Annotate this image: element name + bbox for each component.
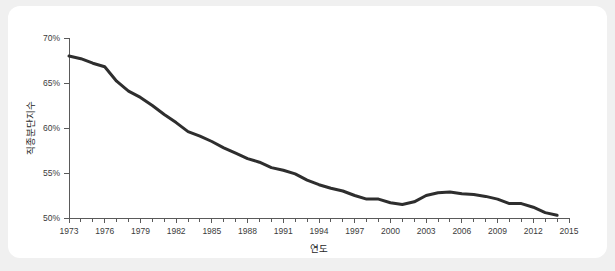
y-tick-label: 60% [43, 123, 60, 133]
y-tick-label: 65% [43, 78, 60, 88]
y-axis-title: 직종분단지수 [25, 101, 36, 155]
x-tick-label: 2009 [488, 226, 507, 236]
x-tick-label: 1982 [167, 226, 186, 236]
x-tick-label: 1976 [95, 226, 114, 236]
y-axis-tick-labels: 70%65%60%55%50% [43, 33, 60, 223]
chart-card: 70%65%60%55%50% 197319761979198219851988… [8, 6, 607, 258]
x-tick-label: 1979 [131, 226, 150, 236]
y-tick-label: 70% [43, 33, 60, 43]
series-line-occupational-segregation [69, 56, 557, 215]
x-tick-label: 1997 [345, 226, 364, 236]
x-tick-label: 1973 [60, 226, 79, 236]
x-tick-label: 1988 [238, 226, 257, 236]
y-tick-label: 50% [43, 213, 60, 223]
x-axis-title: 연도 [310, 243, 328, 254]
line-chart: 70%65%60%55%50% 197319761979198219851988… [8, 6, 607, 258]
x-tick-label: 2012 [524, 226, 543, 236]
y-tick-label: 55% [43, 168, 60, 178]
x-tick-label: 1994 [310, 226, 329, 236]
x-tick-label: 2003 [417, 226, 436, 236]
x-tick-label: 2015 [560, 226, 579, 236]
x-tick-label: 2000 [381, 226, 400, 236]
x-axis-tick-marks [69, 218, 569, 223]
y-axis-tick-marks [64, 38, 69, 218]
x-tick-label: 1991 [274, 226, 293, 236]
x-tick-label: 2006 [452, 226, 471, 236]
x-axis-tick-labels: 1973197619791982198519881991199419972000… [60, 226, 579, 236]
x-tick-label: 1985 [202, 226, 221, 236]
figure-root: 70%65%60%55%50% 197319761979198219851988… [0, 0, 615, 271]
